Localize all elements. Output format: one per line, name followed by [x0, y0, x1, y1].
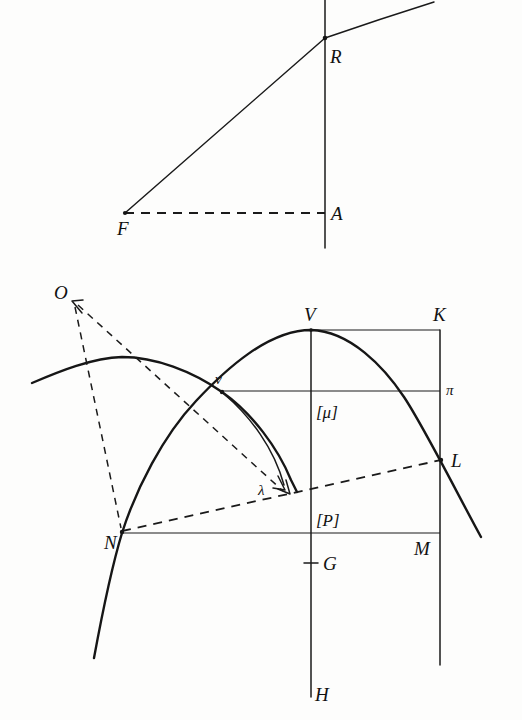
label-point-a: A — [331, 204, 343, 223]
label-point-m: M — [414, 539, 430, 558]
label-point-k: K — [433, 305, 446, 324]
arrowhead-o-icon — [72, 300, 83, 313]
label-point-l: L — [451, 451, 462, 470]
point-f-marker — [123, 211, 127, 215]
point-lowercase-v-marker — [220, 390, 224, 394]
point-v-marker — [309, 328, 313, 332]
upper-ray-r-extension-line — [325, 2, 434, 38]
label-angle-lambda: λ — [258, 483, 265, 498]
label-mu-bracket: [μ] — [316, 404, 338, 421]
figure-canvas: R F A O V K v π [μ] L λ [P] N M G H — [0, 0, 522, 720]
label-point-pi: π — [446, 383, 454, 398]
lower-panel-group — [32, 300, 481, 697]
label-point-v-lower: v — [215, 372, 222, 387]
dashed-chord-n-to-l — [122, 460, 441, 531]
label-point-h: H — [315, 685, 329, 704]
point-l-marker — [439, 458, 443, 462]
label-point-v-upper: V — [304, 305, 316, 324]
label-point-f: F — [117, 219, 129, 238]
dashed-ray-o-to-n — [75, 307, 121, 528]
label-point-o: O — [54, 283, 68, 302]
steep-parabola-curve — [94, 330, 481, 658]
upper-ray-f-to-r-line — [125, 38, 325, 213]
label-point-n: N — [104, 533, 117, 552]
label-point-g: G — [323, 554, 337, 573]
upper-panel-group — [123, 0, 434, 248]
point-n-marker — [120, 530, 124, 534]
point-r-marker — [323, 36, 328, 41]
dashed-ray-o-to-lambda — [78, 305, 283, 491]
label-point-r: R — [330, 47, 342, 66]
geometry-figure-svg — [0, 0, 522, 720]
angle-arc-lambda — [224, 394, 284, 485]
flat-trajectory-curve — [32, 357, 297, 492]
label-p-bracket: [P] — [316, 512, 340, 529]
